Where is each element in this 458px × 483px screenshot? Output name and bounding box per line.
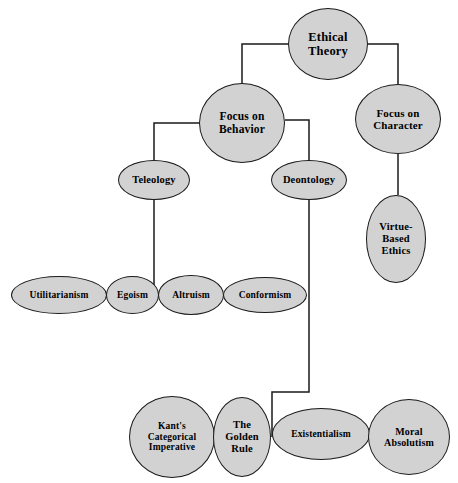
node-label-the-golden-rule: The Golden Rule — [223, 419, 261, 454]
node-layer: Ethical TheoryFocus on BehaviorFocus on … — [0, 0, 458, 483]
node-altruism[interactable]: Altruism — [158, 275, 224, 315]
node-conformism[interactable]: Conformism — [223, 277, 307, 313]
node-kants-categorical-imperative[interactable]: Kant's Categorical Imperative — [129, 396, 215, 478]
node-label-utilitarianism: Utilitarianism — [27, 290, 90, 301]
node-deontology[interactable]: Deontology — [271, 160, 347, 200]
node-virtue-based-ethics[interactable]: Virtue- Based Ethics — [366, 195, 426, 283]
node-utilitarianism[interactable]: Utilitarianism — [11, 276, 107, 314]
ethical-theory-diagram: Ethical TheoryFocus on BehaviorFocus on … — [0, 0, 458, 483]
node-label-kants-categorical-imperative: Kant's Categorical Imperative — [146, 421, 199, 453]
node-moral-absolutism[interactable]: Moral Absolutism — [368, 399, 450, 475]
node-teleology[interactable]: Teleology — [118, 160, 190, 200]
node-label-virtue-based-ethics: Virtue- Based Ethics — [377, 221, 414, 256]
node-label-moral-absolutism: Moral Absolutism — [382, 426, 436, 448]
node-label-deontology: Deontology — [281, 174, 337, 186]
node-ethical-theory[interactable]: Ethical Theory — [288, 8, 368, 80]
node-label-ethical-theory: Ethical Theory — [306, 30, 350, 58]
node-label-teleology: Teleology — [130, 174, 178, 186]
node-label-focus-on-behavior: Focus on Behavior — [217, 110, 267, 136]
node-focus-on-character[interactable]: Focus on Character — [355, 84, 441, 154]
node-label-conformism: Conformism — [237, 290, 294, 301]
node-label-altruism: Altruism — [170, 290, 212, 301]
node-label-egoism: Egoism — [115, 290, 150, 301]
node-focus-on-behavior[interactable]: Focus on Behavior — [199, 83, 285, 163]
node-the-golden-rule[interactable]: The Golden Rule — [213, 397, 271, 477]
node-egoism[interactable]: Egoism — [106, 276, 159, 314]
node-label-focus-on-character: Focus on Character — [371, 107, 425, 132]
node-label-existentialism: Existentialism — [289, 429, 353, 440]
node-existentialism[interactable]: Existentialism — [272, 408, 370, 460]
